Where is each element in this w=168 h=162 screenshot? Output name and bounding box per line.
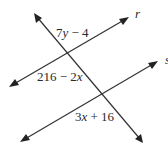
arrowhead-icon — [119, 17, 129, 25]
angle-label-bottom: 3x + 16 — [75, 109, 115, 124]
parallel-lines-diagram: r s 7y − 4 216 − 2x 3x + 16 — [0, 0, 168, 162]
arrowhead-icon — [148, 61, 158, 69]
angle-label-middle: 216 − 2x — [37, 69, 83, 84]
angle-label-top: 7y − 4 — [56, 25, 89, 40]
line-label-s: s — [165, 52, 168, 67]
line-label-r: r — [135, 6, 141, 21]
arrowhead-icon — [20, 134, 30, 142]
arrowhead-icon — [9, 79, 19, 87]
